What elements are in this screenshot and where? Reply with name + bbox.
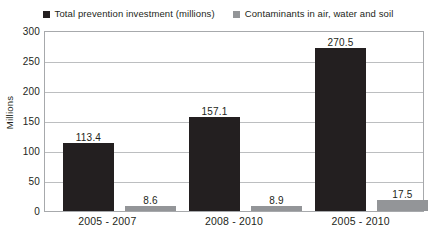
bars-layer: 113.4 8.6 157.1 8.9 270.5 17.5 <box>45 32 423 211</box>
bar-contaminants-2008-2010[interactable] <box>251 206 302 211</box>
y-tick-100: 100 <box>0 147 40 157</box>
chart-legend: Total prevention investment (millions) C… <box>0 5 436 23</box>
y-tick-150: 150 <box>0 117 40 127</box>
x-category-2005-2010: 2005 - 2010 <box>297 216 424 232</box>
y-tick-50: 50 <box>0 177 40 187</box>
x-category-2008-2010: 2008 - 2010 <box>171 216 298 232</box>
plot-area: 113.4 8.6 157.1 8.9 270.5 17.5 <box>44 31 424 212</box>
y-tick-250: 250 <box>0 57 40 67</box>
bar-total-prevention-investment-2005-2007[interactable] <box>63 143 114 211</box>
bar-total-prevention-investment-2005-2010[interactable] <box>315 48 366 211</box>
legend-label-total-prevention-investment: Total prevention investment (millions) <box>55 9 215 19</box>
y-tick-300: 300 <box>0 27 40 37</box>
bar-value-label-157-1: 157.1 <box>189 107 240 117</box>
bar-value-label-113-4: 113.4 <box>63 133 114 143</box>
bar-contaminants-2005-2010[interactable] <box>377 200 428 211</box>
legend-swatch-dark-icon <box>43 11 50 18</box>
y-tick-0: 0 <box>0 207 40 217</box>
bar-chart: Total prevention investment (millions) C… <box>0 0 436 240</box>
y-tick-200: 200 <box>0 87 40 97</box>
bar-total-prevention-investment-2008-2010[interactable] <box>189 117 240 211</box>
bar-value-label-17-5: 17.5 <box>377 190 428 200</box>
x-axis-category-labels: 2005 - 2007 2008 - 2010 2005 - 2010 <box>44 216 424 232</box>
bar-value-label-8-6: 8.6 <box>125 196 176 206</box>
legend-entry-total-prevention-investment[interactable]: Total prevention investment (millions) <box>43 9 215 19</box>
legend-swatch-gray-icon <box>233 11 240 18</box>
bar-contaminants-2005-2007[interactable] <box>125 206 176 211</box>
legend-entry-contaminants[interactable]: Contaminants in air, water and soil <box>233 9 394 19</box>
bar-value-label-270-5: 270.5 <box>315 38 366 48</box>
x-category-2005-2007: 2005 - 2007 <box>44 216 171 232</box>
bar-value-label-8-9: 8.9 <box>251 196 302 206</box>
legend-label-contaminants: Contaminants in air, water and soil <box>245 9 394 19</box>
y-axis-tick-labels: 300 250 200 150 100 50 0 <box>0 31 40 212</box>
